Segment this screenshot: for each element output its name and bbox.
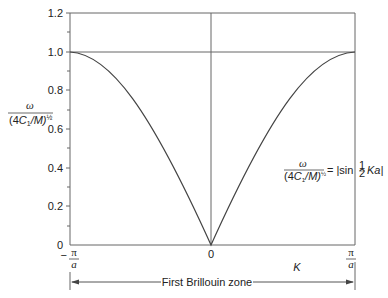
arrow-right-icon (346, 280, 354, 285)
y-tick-0.6: 0.6 (48, 123, 63, 135)
svg-text:a: a (348, 258, 354, 270)
svg-text:(4C1/M)½: (4C1/M)½ (284, 170, 326, 183)
y-tick-0.8: 0.8 (48, 84, 63, 96)
svg-text:a: a (71, 258, 77, 270)
x-tick-right-pi: π (348, 246, 354, 258)
formula-annotation: ω (4C1/M)½ = |sin 1 2 Ka| (284, 157, 383, 183)
svg-text:2: 2 (359, 167, 365, 179)
svg-text:ω: ω (26, 99, 34, 111)
brillouin-zone-label: First Brillouin zone (162, 276, 252, 288)
brillouin-zone-indicator: First Brillouin zone (70, 262, 355, 290)
arrow-left-icon (71, 280, 79, 285)
axes (70, 13, 355, 245)
x-axis-label: K (293, 261, 301, 273)
svg-text:(4C1/M)½: (4C1/M)½ (9, 114, 53, 127)
x-tick-minus-sign: − (61, 249, 67, 261)
svg-text:Ka|: Ka| (367, 164, 383, 176)
y-tick-1.2: 1.2 (48, 7, 63, 19)
dispersion-curve (70, 52, 355, 245)
y-tick-0.4: 0.4 (48, 162, 63, 174)
dispersion-chart: 1.2 1.0 0.8 0.6 0.4 0.2 0 ω (4C1/M)½ − π… (0, 0, 388, 298)
x-tick-left-pi: π (71, 246, 77, 258)
y-ticks (66, 13, 70, 226)
x-tick-labels: − π a 0 π a (61, 246, 356, 270)
y-tick-labels: 1.2 1.0 0.8 0.6 0.4 0.2 0 (48, 7, 63, 251)
y-axis-label: ω (4C1/M)½ (8, 99, 53, 127)
svg-text:ω: ω (299, 157, 307, 169)
svg-text:= |sin: = |sin (327, 164, 353, 176)
y-tick-0.2: 0.2 (48, 200, 63, 212)
x-tick-0: 0 (208, 248, 214, 260)
y-tick-1.0: 1.0 (48, 46, 63, 58)
